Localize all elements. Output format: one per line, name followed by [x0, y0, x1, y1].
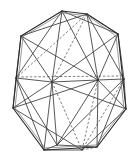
- icosahedron-drawing: [0, 0, 139, 158]
- body-fill: [13, 11, 126, 150]
- polyhedron-figure: [0, 0, 139, 158]
